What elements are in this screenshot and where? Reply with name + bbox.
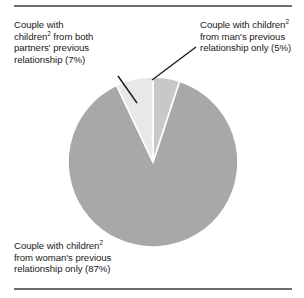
pie-label-man-line1: Couple with children2 bbox=[200, 19, 291, 31]
pie-label-both-line4: relationship (7%) bbox=[14, 54, 93, 66]
pie-label-both-line3: partners' previous bbox=[14, 42, 93, 54]
pie-label-both-line2-pre: children bbox=[14, 31, 47, 42]
leader-line-man bbox=[152, 47, 196, 80]
pie-label-both-line2-post: from both bbox=[51, 31, 94, 42]
pie-label-man-line1-pre: Couple with children bbox=[200, 19, 285, 30]
figure-bottom-rule bbox=[14, 288, 292, 290]
pie-label-both-partners-previous: Couple with children2 from both partners… bbox=[14, 19, 93, 65]
pie-label-woman-previous-only: Couple with children2 from woman's previ… bbox=[14, 240, 111, 275]
pie-label-woman-line3: relationship only (87%) bbox=[14, 263, 111, 275]
pie-chart-figure: Couple with children2 from both partners… bbox=[0, 0, 304, 298]
pie-label-man-previous-only: Couple with children2 from man's previou… bbox=[200, 19, 291, 54]
pie-label-woman-line2: from woman's previous bbox=[14, 252, 111, 264]
pie-label-man-line2: from man's previous bbox=[200, 31, 291, 43]
footnote-marker: 2 bbox=[285, 18, 289, 25]
pie-label-both-line2: children2 from both bbox=[14, 31, 93, 43]
footnote-marker: 2 bbox=[99, 239, 103, 246]
pie-label-man-line3: relationship only (5%) bbox=[200, 42, 291, 54]
pie-label-both-line1: Couple with bbox=[14, 19, 93, 31]
pie-label-woman-line1-pre: Couple with children bbox=[14, 240, 99, 251]
pie-label-woman-line1: Couple with children2 bbox=[14, 240, 111, 252]
